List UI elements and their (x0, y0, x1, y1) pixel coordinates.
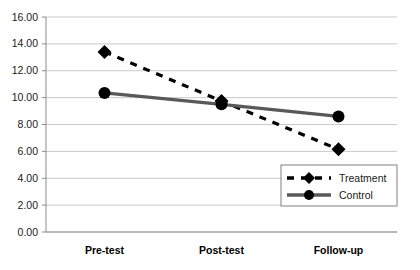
y-tick-label: 2.00 (18, 199, 39, 211)
y-tick-label: 4.00 (18, 172, 39, 184)
y-tick-label: 8.00 (18, 118, 39, 130)
x-tick-labels-group: Pre-testPost-testFollow-up (85, 244, 363, 256)
chart-svg: 0.002.004.006.008.0010.0012.0014.0016.00… (0, 0, 420, 270)
y-tick-label: 14.00 (12, 37, 38, 49)
x-tick-label: Post-test (199, 244, 244, 256)
legend-label-control: Control (339, 189, 373, 201)
legend-label-treatment: Treatment (339, 172, 387, 184)
chart-container: 0.002.004.006.008.0010.0012.0014.0016.00… (0, 0, 420, 270)
legend-marker-circle (304, 190, 314, 200)
y-tick-marks-group (42, 17, 46, 232)
chart-legend: TreatmentControl (281, 165, 397, 206)
marker-circle-control (333, 110, 345, 122)
y-tick-labels-group: 0.002.004.006.008.0010.0012.0014.0016.00 (12, 11, 38, 238)
y-tick-label: 16.00 (12, 11, 38, 23)
y-tick-label: 12.00 (12, 64, 38, 76)
x-tick-label: Follow-up (314, 244, 364, 256)
y-tick-label: 0.00 (18, 226, 39, 238)
y-tick-label: 6.00 (18, 145, 39, 157)
x-tick-label: Pre-test (85, 244, 125, 256)
marker-circle-control (99, 87, 111, 99)
y-tick-label: 10.00 (12, 91, 38, 103)
marker-circle-control (216, 98, 228, 110)
